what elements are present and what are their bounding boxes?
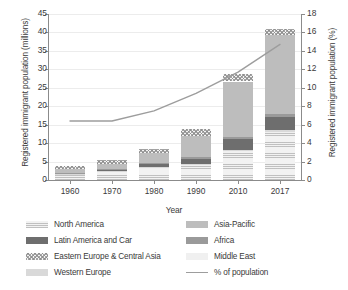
y-axis-right-tick [301,51,305,52]
bar-segment [223,82,253,138]
y-axis-right-label: 2 [307,157,347,165]
bar-segment [265,114,295,117]
y-axis-right-label: 0 [307,175,347,183]
legend-item[interactable]: % of population [186,268,326,277]
legend-color-swatch [26,253,48,260]
y-axis-left-label: 0 [7,175,47,183]
legend-label: Eastern Europe & Central Asia [54,252,161,261]
x-axis-tick [196,180,197,184]
y-axis-left-label: 5 [7,157,47,165]
bar-segment [181,164,211,165]
x-axis-title: Year [0,205,348,215]
x-axis-label: 1990 [173,186,219,196]
y-axis-left-label: 30 [7,64,47,72]
y-axis-right-label: 10 [307,83,347,91]
bar-segment [139,168,169,169]
bar-segment [97,164,127,169]
legend-color-swatch [186,221,208,228]
gridline [49,125,301,126]
bar-segment [55,174,85,180]
bar-segment [181,136,211,158]
legend-item[interactable]: North America [26,220,186,229]
y-axis-left-label: 35 [7,46,47,54]
x-axis-label: 1970 [89,186,135,196]
x-axis-tick [280,180,281,184]
x-axis-label: 1980 [131,186,177,196]
bar-segment [139,163,169,164]
legend-color-swatch [26,221,48,228]
bar-segment [181,159,211,164]
legend-label: Africa [214,236,234,245]
chart-legend: North AmericaAsia-PacificLatin America a… [26,216,326,280]
y-axis-right-tick [301,180,305,181]
y-axis-right-label: 18 [307,9,347,17]
bar-segment [97,172,127,180]
y-axis-right-tick [301,69,305,70]
legend-label: Middle East [214,252,255,261]
bar-stack [55,14,85,180]
legend-item[interactable]: Eastern Europe & Central Asia [26,252,186,261]
percent-of-population-line [49,14,301,180]
bar-segment [265,133,295,180]
bar-segment [139,167,169,168]
y-axis-left-label: 15 [7,120,47,128]
y-axis-right-tick [301,14,305,15]
bar-segment [223,151,253,152]
x-axis-tick [238,180,239,184]
bar-segment [265,35,295,114]
legend-item[interactable]: Latin America and Car [26,236,186,245]
bar-segment [223,74,253,81]
legend-label: Asia-Pacific [214,220,255,229]
gridline [49,32,301,33]
x-axis-label: 2010 [215,186,261,196]
gridline [49,14,301,15]
y-axis-right-label: 14 [307,46,347,54]
x-axis-tick [70,180,71,184]
y-axis-right-label: 4 [307,138,347,146]
x-axis-tick [154,180,155,184]
bar-segment [181,157,211,158]
legend-color-swatch [186,253,208,260]
bar-segment [181,165,211,180]
bar-segment [55,166,85,170]
bar-segment [139,153,169,163]
bar-segment [97,160,127,164]
bar-stack [139,14,169,180]
y-axis-right-label: 16 [307,27,347,35]
gridline [49,106,301,107]
gridline [49,51,301,52]
legend-item[interactable]: Middle East [186,252,326,261]
legend-label: Latin America and Car [54,236,132,245]
gridline [49,143,301,144]
legend-line-swatch [186,269,208,276]
y-axis-right-tick [301,125,305,126]
bar-segment [139,149,169,153]
legend-item[interactable]: Africa [186,236,326,245]
legend-item[interactable]: Asia-Pacific [186,220,326,229]
x-axis-label: 2017 [257,186,303,196]
y-axis-right-tick [301,162,305,163]
bar-segment [223,137,253,139]
bar-segment [265,29,295,35]
x-axis-tick [112,180,113,184]
legend-label: Western Europe [54,268,111,277]
bar-segment [181,165,211,166]
y-axis-right-tick [301,32,305,33]
legend-item[interactable]: Western Europe [26,268,186,277]
bar-stack [265,14,295,180]
bar-segment [139,169,169,180]
legend-color-swatch [26,269,48,276]
y-axis-left-label: 10 [7,138,47,146]
y-axis-right-label: 8 [307,101,347,109]
bar-segment [97,171,127,172]
y-axis-right-label: 12 [307,64,347,72]
bar-segment [223,139,253,150]
bar-segment [55,173,85,174]
bar-segment [97,169,127,170]
y-axis-right-tick [301,143,305,144]
y-axis-left-label: 25 [7,83,47,91]
legend-label: % of population [214,268,268,277]
bar-stack [181,14,211,180]
bar-stack [223,14,253,180]
gridline [49,88,301,89]
